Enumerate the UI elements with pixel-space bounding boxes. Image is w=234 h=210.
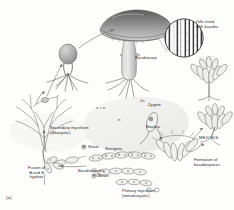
label-sterigma: Sterigma (105, 147, 122, 152)
label-basidia: Basidia (146, 125, 160, 130)
label-zygote: Zygote (148, 103, 161, 108)
label-strain-plus: Strain (88, 145, 99, 150)
label-formation-of-basidiospores: Formation of basidiospores (194, 158, 220, 167)
label-basidiocarp: Basidiocarp (135, 56, 157, 61)
strain-minus-symbol: ⊖ (92, 174, 95, 179)
label-primary-mycelium: Primary mycelium (monokaryotic) (122, 189, 155, 198)
basidia-cluster-upper (189, 56, 229, 101)
basidiocarp-mushroom (100, 10, 172, 98)
label-meiosis: MEIOSIS (199, 136, 219, 141)
figure-basidiomycete-life-cycle: Gills lined with basidia Basidiocarp Sec… (0, 0, 234, 210)
label-gills-lined-with-basidia: Gills lined with basidia (196, 20, 218, 29)
strain-plus-symbol: ⊕ (82, 145, 85, 150)
young-basidiocarp-button (47, 44, 88, 91)
ploidy-diploid: 2n (140, 99, 145, 104)
panel-identifier: (a) (6, 196, 12, 201)
label-fusion-of-hyphae: Fusion of ⊕ and ⊖ hyphae (28, 166, 45, 180)
ploidy-haploid: n (118, 118, 120, 123)
label-secondary-mycelium: Secondary mycelium (dikaryotic) (50, 126, 89, 135)
label-strain-minus: Strain (98, 174, 109, 179)
ploidy-dikaryotic: n + n (96, 106, 105, 111)
